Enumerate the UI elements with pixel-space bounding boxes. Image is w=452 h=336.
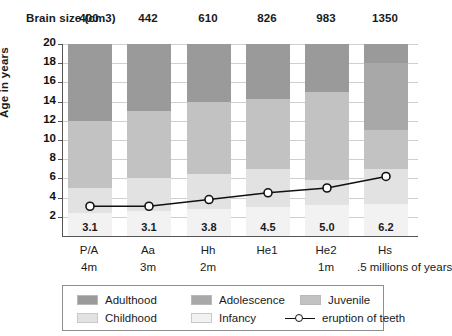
segment-childhood [187,174,231,210]
y-tick-mark [58,198,63,199]
y-tick-label: 2 [12,209,56,221]
y-tick-label: 10 [12,132,56,144]
segment-adulthood [364,44,408,63]
segment-childhood [364,169,408,205]
brain-size-header: Brain size (cm3) 4004426108269831350 [0,12,446,28]
x-axis-sublabels: 4m3m2m1m.5 millions of years [62,261,417,276]
bar-hs[interactable]: 6.2 [364,44,408,236]
legend-label: Infancy [219,312,256,324]
legend-item-eruption-of-teeth[interactable]: eruption of teeth [285,311,405,325]
y-tick-label: 6 [12,170,56,182]
segment-adulthood [68,44,112,121]
x-tick-label: P/A [67,244,111,256]
brain-size-value: 1350 [355,12,415,24]
y-tick-label: 16 [12,74,56,86]
brain-size-value: 826 [237,12,297,24]
y-axis-title: Age in years [0,47,10,118]
bar-hh[interactable]: 3.8 [187,44,231,236]
bar-he2[interactable]: 5.0 [305,44,349,236]
legend-item-infancy[interactable]: Infancy [191,311,256,325]
chart-legend: AdulthoodAdolescenceJuvenileChildhoodInf… [62,285,384,331]
x-sublabel: 1m [304,261,348,273]
y-tick-label: 14 [12,94,56,106]
legend-label: eruption of teeth [322,312,405,324]
legend-label: Childhood [105,312,157,324]
legend-swatch-icon [191,295,212,305]
segment-juvenile [187,102,231,174]
y-tick-label: 20 [12,36,56,48]
segment-adulthood [305,44,349,92]
segment-adolescence [364,63,408,130]
y-tick-mark [58,63,63,64]
y-tick-label: 4 [12,190,56,202]
legend-line-marker-icon [285,313,315,323]
legend-swatch-icon [300,295,321,305]
legend-swatch-icon [191,313,212,323]
segment-juvenile [127,111,171,178]
eruption-value-label: 5.0 [305,221,349,233]
brain-size-value: 983 [296,12,356,24]
bar-he1[interactable]: 4.5 [246,44,290,236]
y-tick-mark [58,159,63,160]
legend-item-adolescence[interactable]: Adolescence [191,293,285,307]
x-tick-label: Hs [363,244,407,256]
legend-item-juvenile[interactable]: Juvenile [300,293,370,307]
x-tick-label: Aa [126,244,170,256]
eruption-value-label: 3.1 [127,221,171,233]
x-sublabel: 2m [186,261,230,273]
y-tick-label: 18 [12,55,56,67]
x-sublabel: .5 millions of years [357,261,452,273]
legend-item-childhood[interactable]: Childhood [77,311,157,325]
segment-childhood [246,169,290,207]
x-sublabel: 3m [126,261,170,273]
y-tick-mark [58,102,63,103]
legend-label: Adolescence [219,294,285,306]
eruption-value-label: 3.8 [187,221,231,233]
y-tick-label: 8 [12,151,56,163]
y-tick-mark [58,178,63,179]
y-tick-mark [58,82,63,83]
segment-juvenile [364,130,408,168]
bar-p-a[interactable]: 3.1 [68,44,112,236]
x-tick-label: He1 [245,244,289,256]
y-tick-mark [58,44,63,45]
x-tick-label: He2 [304,244,348,256]
y-tick-label: 12 [12,113,56,125]
legend-swatch-icon [77,295,98,305]
brain-size-value: 442 [118,12,178,24]
segment-adulthood [187,44,231,102]
eruption-value-label: 4.5 [246,221,290,233]
segment-childhood [127,178,171,211]
x-tick-label: Hh [186,244,230,256]
y-tick-mark [58,121,63,122]
eruption-value-label: 6.2 [364,221,408,233]
segment-juvenile [68,121,112,188]
bar-aa[interactable]: 3.1 [127,44,171,236]
legend-item-adulthood[interactable]: Adulthood [77,293,157,307]
brain-size-value: 400 [59,12,119,24]
y-tick-mark [58,217,63,218]
brain-size-value: 610 [178,12,238,24]
chart-plot-area: 3.13.13.84.55.06.2 [62,44,418,237]
segment-adulthood [127,44,171,111]
eruption-value-label: 3.1 [68,221,112,233]
segment-juvenile [246,99,290,169]
segment-childhood [305,180,349,205]
segment-juvenile [305,92,349,180]
x-axis-labels: P/AAaHhHe1He2Hs [62,244,417,259]
segment-adulthood [246,44,290,99]
segment-childhood [68,188,112,213]
legend-label: Adulthood [105,294,157,306]
legend-swatch-icon [77,313,98,323]
x-sublabel: 4m [67,261,111,273]
legend-label: Juvenile [328,294,370,306]
y-tick-mark [58,140,63,141]
